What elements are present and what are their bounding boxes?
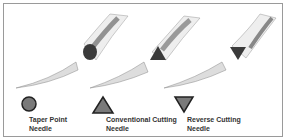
legend-label-line2: Needle xyxy=(187,124,241,133)
legend-label-line1: Reverse Cutting xyxy=(187,115,241,124)
legend-taper-point: Taper Point Needle xyxy=(29,115,67,133)
conventional-cutting-shaft xyxy=(150,16,200,60)
legend-conventional-cutting: Conventional Cutting Needle xyxy=(106,115,177,133)
legend-label-line1: Conventional Cutting xyxy=(106,115,177,124)
legend-label-line2: Needle xyxy=(29,124,67,133)
legend-reverse-cutting: Reverse Cutting Needle xyxy=(187,115,241,133)
triangle-up-icon xyxy=(93,97,113,113)
conventional-cutting-tip xyxy=(90,62,148,88)
circle-icon xyxy=(22,97,36,111)
legend-label-line1: Taper Point xyxy=(29,115,67,124)
legend-label-line2: Needle xyxy=(106,124,177,133)
taper-point-shaft xyxy=(83,14,128,60)
reverse-cutting-tip xyxy=(164,62,226,88)
triangle-down-icon xyxy=(175,97,193,112)
reverse-cutting-shaft xyxy=(230,14,276,60)
taper-point-cross-section xyxy=(83,44,97,60)
taper-point-tip xyxy=(16,62,78,88)
